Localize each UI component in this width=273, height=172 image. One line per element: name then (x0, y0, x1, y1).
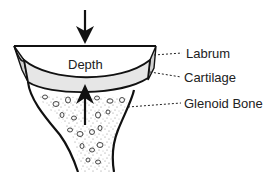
glenoid-cross-section-diagram (0, 0, 273, 172)
depth-label: Depth (68, 58, 103, 71)
labrum-label: Labrum (186, 47, 230, 60)
cartilage-label: Cartilage (184, 71, 236, 84)
glenoid-bone-label: Glenoid Bone (184, 97, 263, 110)
compression-arrow-down-icon (76, 10, 94, 44)
cartilage-leader-line (150, 72, 181, 77)
glenoid-bone-leader-line (128, 103, 181, 107)
labrum-leader-line (154, 53, 182, 55)
